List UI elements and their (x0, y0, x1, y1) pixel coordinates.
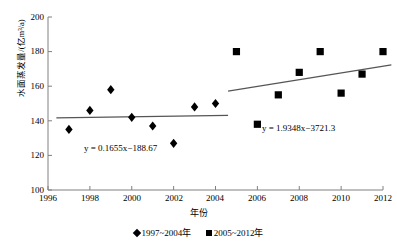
legend-label: 1997~2004年 (142, 228, 192, 238)
diamond-marker-icon (132, 228, 140, 236)
plot-area (0, 0, 397, 244)
chart-legend: 1997~2004年 2005~2012年 (0, 226, 397, 239)
square-marker-icon (206, 230, 212, 236)
legend-item-series1: 1997~2004年 (134, 227, 192, 237)
legend-label: 2005~2012年 (214, 228, 264, 238)
chart-container: 水面蒸发量/(亿m³/a) 200 180 160 140 120 100 19… (0, 0, 397, 244)
legend-item-series2: 2005~2012年 (206, 227, 264, 237)
